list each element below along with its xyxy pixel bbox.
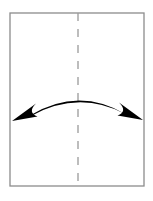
figure-root: Curved double-headed arrow spanning a bo…: [0, 0, 153, 201]
diagram-canvas: [0, 0, 153, 201]
page-border-rectangle: [10, 13, 144, 186]
